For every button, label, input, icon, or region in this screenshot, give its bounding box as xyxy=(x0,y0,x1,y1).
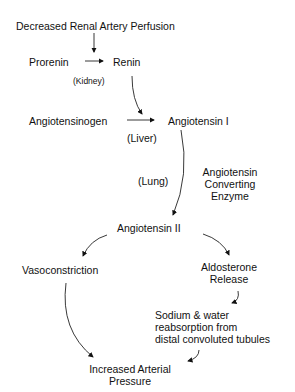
ace-line-3: Enzyme xyxy=(190,190,270,202)
ace-label: Angiotensin Converting Enzyme xyxy=(190,166,270,202)
outcome-line-2: Pressure xyxy=(80,375,180,387)
ace-line-1: Angiotensin xyxy=(190,166,270,178)
lung-label: (Lung) xyxy=(138,175,168,187)
arrow-sodium xyxy=(232,291,238,303)
aldosterone-label: Aldosterone Release xyxy=(186,261,272,285)
sodium-line-1: Sodium & water xyxy=(155,309,270,321)
sodium-line-3: distal convoluted tubules xyxy=(155,333,270,345)
vasoconstriction-label: Vasoconstriction xyxy=(22,264,98,276)
trigger-label: Decreased Renal Artery Perfusion xyxy=(16,20,175,32)
aldo-line-2: Release xyxy=(186,273,272,285)
prorenin-label: Prorenin xyxy=(29,56,69,68)
kidney-label: (Kidney) xyxy=(73,75,105,87)
arrow-renin-down xyxy=(132,76,142,114)
arrow-sodium-outcome xyxy=(188,350,199,361)
outcome-label: Increased Arterial Pressure xyxy=(80,363,180,387)
sodium-line-2: reabsorption from xyxy=(155,321,270,333)
arrow-vaso xyxy=(83,235,107,256)
arrow-vaso-outcome xyxy=(65,283,93,357)
angiotensinogen-label: Angiotensinogen xyxy=(29,115,107,127)
angiotensin-1-label: Angiotensin I xyxy=(168,115,229,127)
liver-label: (Liver) xyxy=(127,132,157,144)
arrow-ace xyxy=(173,130,184,215)
aldo-line-1: Aldosterone xyxy=(186,261,272,273)
ace-line-2: Converting xyxy=(190,178,270,190)
arrow-aldo xyxy=(203,234,229,255)
sodium-label: Sodium & water reabsorption from distal … xyxy=(155,309,270,345)
renin-label: Renin xyxy=(113,56,140,68)
angiotensin-2-label: Angiotensin II xyxy=(117,222,181,234)
outcome-line-1: Increased Arterial xyxy=(80,363,180,375)
